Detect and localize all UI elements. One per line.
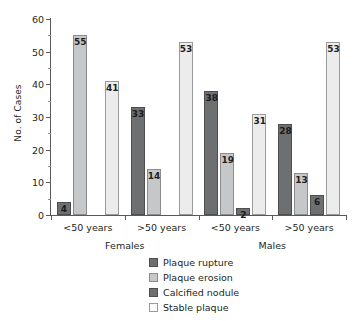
x-axis-category-label: >50 years [125, 222, 199, 233]
bar: 13 [294, 173, 308, 215]
legend-label: Stable plaque [163, 302, 229, 313]
legend-label: Plaque erosion [163, 272, 233, 283]
y-axis-tick [46, 117, 51, 118]
y-axis-tick-label: 0 [38, 210, 44, 221]
y-axis-minor-tick [48, 35, 51, 36]
bar-value-label: 53 [180, 44, 192, 55]
legend: Plaque rupture Plaque erosion Calcified … [149, 256, 239, 316]
bar: 53 [179, 42, 193, 215]
y-axis-minor-tick [48, 166, 51, 167]
y-axis-tick-label: 60 [32, 14, 44, 25]
bar-value-label: 38 [205, 93, 217, 104]
y-axis-tick-label: 40 [32, 79, 44, 90]
x-axis-tick [272, 215, 273, 220]
x-axis-tick [199, 215, 200, 220]
bar-value-label: 14 [148, 171, 160, 182]
legend-label: Plaque rupture [163, 257, 233, 268]
bar-value-label: 53 [327, 44, 339, 55]
x-axis-category-label: >50 years [272, 222, 346, 233]
bar-chart: No. of Cases 010203040506045541331453381… [0, 0, 354, 321]
plot-area: 01020304050604554133145338192312813653 [51, 19, 346, 215]
y-axis-tick [46, 52, 51, 53]
legend-item-plaque-rupture: Plaque rupture [149, 256, 239, 269]
bar: 4 [57, 202, 71, 215]
bar-value-label: 6 [311, 197, 323, 208]
y-axis-minor-tick [48, 199, 51, 200]
y-axis-tick-label: 10 [32, 177, 44, 188]
y-axis-minor-tick [48, 68, 51, 69]
x-axis-group-label: Females [51, 240, 199, 251]
y-axis-tick-label: 20 [32, 144, 44, 155]
bar-value-label: 31 [253, 116, 265, 127]
bar: 41 [105, 81, 119, 215]
y-axis-tick [46, 182, 51, 183]
y-axis-tick [46, 84, 51, 85]
y-axis-tick [46, 150, 51, 151]
bar: 14 [147, 169, 161, 215]
x-axis-tick [125, 215, 126, 220]
legend-label: Calcified nodule [163, 287, 239, 298]
y-axis-minor-tick [48, 101, 51, 102]
bar: 53 [326, 42, 340, 215]
x-axis-category-label: <50 years [51, 222, 125, 233]
bar-value-label: 28 [279, 126, 291, 137]
y-axis-title: No. of Cases [13, 58, 23, 168]
legend-swatch-icon [149, 258, 158, 267]
legend-swatch-icon [149, 303, 158, 312]
legend-item-plaque-erosion: Plaque erosion [149, 271, 239, 284]
bar: 33 [131, 107, 145, 215]
bar-value-label: 13 [295, 175, 307, 186]
legend-swatch-icon [149, 273, 158, 282]
x-axis-tick [346, 215, 347, 220]
bar-value-label: 2 [237, 210, 249, 221]
legend-item-calcified-nodule: Calcified nodule [149, 286, 239, 299]
y-axis-tick [46, 19, 51, 20]
legend-swatch-icon [149, 288, 158, 297]
x-axis-tick [51, 215, 52, 220]
bar: 31 [252, 114, 266, 215]
bar: 55 [73, 35, 87, 215]
x-axis-group-label: Males [199, 240, 347, 251]
bar: 2 [236, 208, 250, 215]
bar: 19 [220, 153, 234, 215]
bar-value-label: 4 [58, 204, 70, 215]
bar-value-label: 41 [106, 83, 118, 94]
x-axis-category-label: <50 years [199, 222, 273, 233]
bar-value-label: 19 [221, 155, 233, 166]
y-axis-tick-label: 50 [32, 46, 44, 57]
bar: 6 [310, 195, 324, 215]
y-axis-tick-label: 30 [32, 112, 44, 123]
bar-value-label: 33 [132, 109, 144, 120]
y-axis-minor-tick [48, 133, 51, 134]
bar: 38 [204, 91, 218, 215]
bar: 28 [278, 124, 292, 215]
legend-item-stable-plaque: Stable plaque [149, 301, 239, 314]
bar-value-label: 55 [74, 37, 86, 48]
